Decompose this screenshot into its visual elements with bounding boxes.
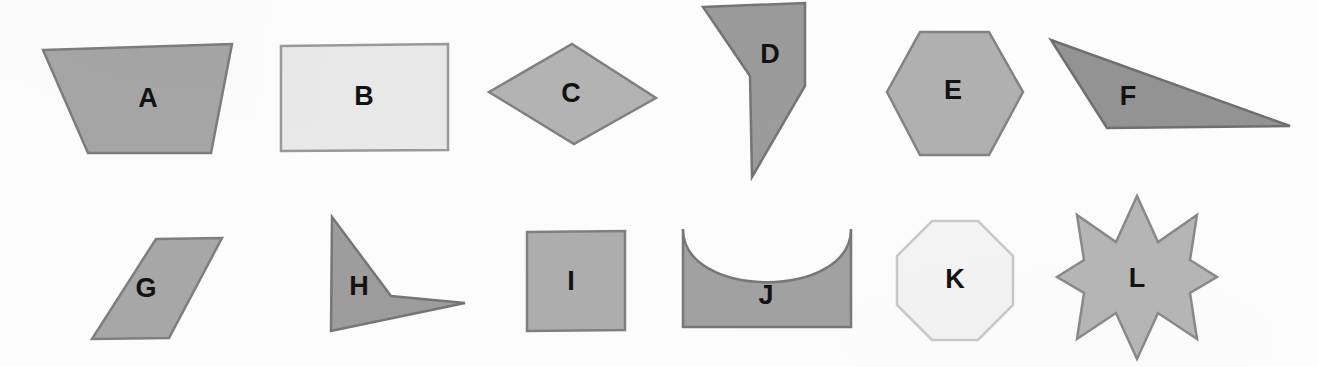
shapes-canvas: ABCDEFGHIJKL — [0, 0, 1318, 367]
shape-f-obtuse-triangle[interactable] — [1051, 40, 1290, 128]
shape-label-h: H — [349, 271, 369, 301]
shape-i-square[interactable] — [527, 231, 625, 331]
shape-label-e: E — [944, 75, 962, 105]
shape-label-k: K — [945, 264, 965, 294]
shapes-layer — [43, 3, 1290, 359]
shape-j-concave-rectangle-arc[interactable] — [683, 229, 851, 327]
shape-label-c: C — [561, 78, 581, 108]
shape-label-j: J — [758, 280, 773, 310]
shape-label-a: A — [138, 83, 158, 113]
shape-d-concave-arrow-quadrilateral[interactable] — [703, 3, 805, 177]
shapes-worksheet: ABCDEFGHIJKL — [0, 0, 1318, 367]
shape-label-l: L — [1129, 263, 1146, 293]
shape-label-i: I — [567, 266, 575, 296]
shape-label-d: D — [760, 39, 780, 69]
shape-label-g: G — [135, 273, 156, 303]
shape-label-b: B — [354, 81, 374, 111]
shape-g-parallelogram[interactable] — [92, 238, 222, 339]
shape-label-f: F — [1120, 81, 1137, 111]
